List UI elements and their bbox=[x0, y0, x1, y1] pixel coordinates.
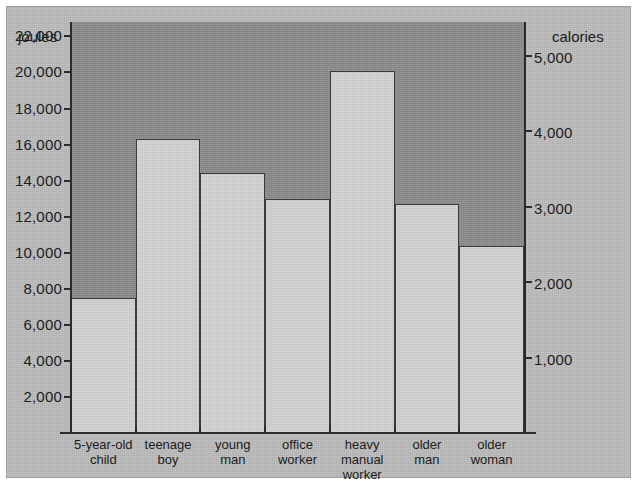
y-axis-left-line bbox=[70, 22, 72, 434]
x-axis-tick bbox=[523, 426, 525, 433]
y-axis-left-tick bbox=[64, 252, 70, 254]
y-axis-left-title: joules bbox=[18, 28, 57, 45]
bar bbox=[71, 298, 136, 433]
y-axis-left-tick bbox=[64, 35, 70, 37]
chart-screenshot: 2,0004,0006,0008,00010,00012,00014,00016… bbox=[0, 0, 635, 492]
bar bbox=[330, 71, 395, 433]
bar bbox=[200, 173, 265, 433]
x-axis-tick bbox=[135, 426, 137, 433]
y-axis-right-tick bbox=[526, 206, 532, 208]
x-axis-tick bbox=[329, 426, 331, 433]
x-axis-tick bbox=[70, 426, 72, 433]
x-axis-category-label: older woman bbox=[459, 437, 524, 467]
x-axis-tick bbox=[458, 426, 460, 433]
y-axis-left-tick-label: 4,000 bbox=[0, 352, 62, 369]
bar bbox=[459, 246, 524, 433]
y-axis-right-line bbox=[524, 22, 526, 434]
y-axis-left-tick bbox=[64, 396, 70, 398]
bar bbox=[395, 204, 460, 433]
bar-texture bbox=[137, 140, 200, 432]
bar bbox=[136, 139, 201, 433]
x-axis-category-label: 5-year-old child bbox=[71, 437, 136, 467]
y-axis-right-tick bbox=[526, 55, 532, 57]
y-axis-left-tick-label: 14,000 bbox=[0, 172, 62, 189]
y-axis-right-tick-label: 3,000 bbox=[534, 200, 604, 217]
y-axis-right-tick bbox=[526, 281, 532, 283]
bar-texture bbox=[331, 72, 394, 432]
x-axis-tick bbox=[199, 426, 201, 433]
y-axis-right-tick-label: 1,000 bbox=[534, 351, 604, 368]
y-axis-right-tick bbox=[526, 357, 532, 359]
x-axis-category-label: heavy manual worker bbox=[330, 437, 395, 482]
y-axis-left-tick bbox=[64, 108, 70, 110]
bar-texture bbox=[201, 174, 264, 432]
y-axis-left-tick bbox=[64, 360, 70, 362]
bar-texture bbox=[396, 205, 459, 432]
y-axis-left-tick-label: 16,000 bbox=[0, 136, 62, 153]
y-axis-left-tick bbox=[64, 180, 70, 182]
y-axis-left-tick bbox=[64, 324, 70, 326]
y-axis-right-tick bbox=[526, 130, 532, 132]
y-axis-left-tick bbox=[64, 288, 70, 290]
x-axis-category-label: young man bbox=[200, 437, 265, 467]
x-axis-category-label: older man bbox=[395, 437, 460, 467]
y-axis-left-tick bbox=[64, 71, 70, 73]
y-axis-left-tick-label: 6,000 bbox=[0, 316, 62, 333]
y-axis-right-tick-label: 5,000 bbox=[534, 49, 604, 66]
y-axis-left-tick-label: 18,000 bbox=[0, 100, 62, 117]
x-axis-category-label: teenage boy bbox=[136, 437, 201, 467]
y-axis-left-tick bbox=[64, 216, 70, 218]
y-axis-left-tick-label: 2,000 bbox=[0, 388, 62, 405]
y-axis-right-tick-label: 2,000 bbox=[534, 275, 604, 292]
y-axis-right-tick-label: 4,000 bbox=[534, 124, 604, 141]
bar-texture bbox=[266, 200, 329, 432]
bar bbox=[265, 199, 330, 433]
y-axis-left-tick-label: 20,000 bbox=[0, 63, 62, 80]
x-axis-tick bbox=[264, 426, 266, 433]
y-axis-left-tick bbox=[64, 144, 70, 146]
y-axis-left-tick-label: 10,000 bbox=[0, 244, 62, 261]
y-axis-left-tick-label: 12,000 bbox=[0, 208, 62, 225]
y-axis-left-tick-label: 8,000 bbox=[0, 280, 62, 297]
x-axis-tick bbox=[394, 426, 396, 433]
bar-texture bbox=[72, 299, 135, 432]
bar-texture bbox=[460, 247, 523, 432]
y-axis-right-title: calories bbox=[552, 28, 604, 45]
x-axis-line bbox=[60, 432, 536, 434]
x-axis-category-label: office worker bbox=[265, 437, 330, 467]
